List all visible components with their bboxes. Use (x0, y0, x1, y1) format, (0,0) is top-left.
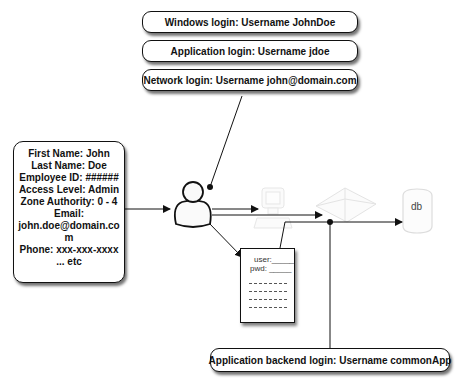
application-login-label: Application login: Username jdoe (171, 46, 330, 57)
network-login-label: Network login: Username john@domain.com (143, 75, 356, 86)
application-login-box: Application login: Username jdoe (142, 40, 358, 62)
profile-etc: ... etc (14, 256, 124, 268)
profile-access-level: Access Level: Admin (14, 184, 124, 196)
person-icon (175, 182, 211, 227)
form-line (249, 283, 287, 284)
profile-email-value: john.doe@domain.co (14, 220, 124, 232)
network-login-box: Network login: Username john@domain.com (142, 69, 358, 91)
windows-login-box: Windows login: Username JohnDoe (142, 11, 358, 33)
login-form-document: user:_____ pwd: _____ (240, 248, 295, 323)
form-pwd-label: pwd: (250, 264, 267, 273)
database-label: db (411, 201, 422, 212)
backend-login-box: Application backend login: Username comm… (210, 348, 450, 372)
form-line (249, 291, 287, 292)
form-line (249, 299, 287, 300)
backend-login-label: Application backend login: Username comm… (209, 355, 452, 366)
profile-email-label: Email: (14, 208, 124, 220)
profile-email-value-wrap: m (14, 232, 124, 244)
profile-first-name: First Name: John (14, 148, 124, 160)
windows-login-label: Windows login: Username JohnDoe (165, 17, 335, 28)
network-icon (316, 188, 376, 222)
form-user-label: user: (254, 255, 272, 264)
profile-last-name: Last Name: Doe (14, 160, 124, 172)
profile-phone: Phone: xxx-xxx-xxxx (14, 244, 124, 256)
form-line (249, 307, 287, 308)
profile-employee-id: Employee ID: ###### (14, 172, 124, 184)
user-profile-box: First Name: John Last Name: Doe Employee… (13, 141, 125, 283)
profile-zone-authority: Zone Authority: 0 - 4 (14, 196, 124, 208)
